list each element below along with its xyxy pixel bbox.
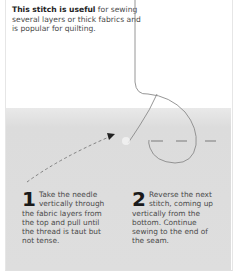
thread-icon (128, 0, 196, 163)
step-number: 2 (132, 191, 146, 208)
step-1: 1 Take the needle vertically through the… (22, 190, 108, 246)
step-2: 2 Reverse the next stitch, coming up ver… (132, 190, 218, 246)
needle-entry-arrow-icon (27, 133, 130, 182)
step-number: 1 (22, 191, 36, 208)
